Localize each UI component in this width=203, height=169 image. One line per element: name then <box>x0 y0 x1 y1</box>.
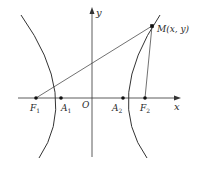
point-F2 <box>143 96 147 100</box>
x-axis-arrow-icon <box>174 96 181 101</box>
label-M: M(x, y) <box>156 24 190 34</box>
label-A1: A1 <box>60 103 71 114</box>
point-F1 <box>34 96 38 100</box>
label-A2: A2 <box>111 103 123 114</box>
point-A2 <box>121 96 125 100</box>
segment-F2-M <box>145 26 152 98</box>
segment-F1-M <box>36 26 152 98</box>
y-axis-label: y <box>95 7 102 18</box>
point-A1 <box>59 96 63 100</box>
hyperbola-right-branch <box>128 15 160 158</box>
hyperbola-diagram: y x O F1 A1 A2 F2 M(x, y) <box>0 0 203 169</box>
diagram-canvas: y x O F1 A1 A2 F2 M(x, y) <box>0 0 203 169</box>
label-F1: F1 <box>29 103 40 114</box>
point-M <box>150 24 154 28</box>
label-F2: F2 <box>139 103 150 114</box>
y-axis-arrow-icon <box>90 7 95 14</box>
origin-label: O <box>82 100 90 110</box>
x-axis-label: x <box>174 101 180 112</box>
hyperbola-left-branch <box>21 15 56 158</box>
